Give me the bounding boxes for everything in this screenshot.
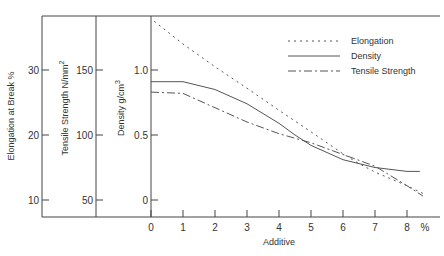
x-tick-label: 2 (212, 222, 218, 233)
x-tick-label: 1 (180, 222, 186, 233)
legend-label-density: Density (351, 51, 382, 61)
tensile-axis-title: Tensile Strength N/mm2 (58, 60, 70, 155)
legend: Elongation Density Tensile Strength (288, 36, 416, 76)
series-elongation (154, 21, 423, 193)
x-tick-label: 8 (404, 222, 410, 233)
series-layer (151, 21, 423, 196)
density-tick-label: 0.5 (134, 130, 148, 141)
density-axis-title: Density g/cm3 (114, 80, 126, 136)
x-tick-label: 0 (148, 222, 154, 233)
tensile-tick-label: 50 (82, 195, 94, 206)
elongation-tick-label: 20 (28, 130, 40, 141)
tensile-strength-axis: 50100150 (76, 65, 103, 206)
x-tick-label: 6 (340, 222, 346, 233)
elongation-axis: 102030 (28, 65, 49, 206)
x-tick-label: 7 (372, 222, 378, 233)
chart-frame (42, 16, 440, 217)
x-tick-label: 3 (244, 222, 250, 233)
multi-axis-line-chart: 102030 50100150 00.51.0 012345678 Elonga… (0, 0, 444, 256)
elongation-axis-title: Elongation at Break % (6, 71, 16, 160)
tensile-tick-label: 150 (76, 65, 93, 76)
x-axis-title: Additive (263, 237, 295, 247)
density-tick-label: 1.0 (134, 65, 148, 76)
density-tick-label: 0 (142, 195, 148, 206)
series-density (151, 82, 420, 172)
legend-label-tensile-strength: Tensile Strength (351, 66, 416, 76)
density-axis: 00.51.0 (134, 65, 158, 206)
series-tensile-strength (151, 92, 423, 196)
elongation-tick-label: 10 (28, 195, 40, 206)
elongation-tick-label: 30 (28, 65, 40, 76)
legend-label-elongation: Elongation (351, 36, 394, 46)
x-axis-additive: 012345678 (148, 210, 410, 233)
tensile-tick-label: 100 (76, 130, 93, 141)
x-tick-label: 4 (276, 222, 282, 233)
x-tick-label: 5 (308, 222, 314, 233)
x-axis-unit: % (421, 222, 430, 233)
